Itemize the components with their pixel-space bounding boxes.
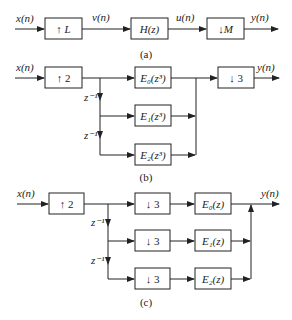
filter-e2-label: E₂(z) <box>201 273 224 286</box>
block-diagrams: x(n) ↑ L v(n) H(z) u(n) ↓M y(n) (a) x(n)… <box>0 0 292 320</box>
downsampler-label: ↓ 3 <box>229 72 243 84</box>
downsampler-1-label: ↓ 3 <box>146 235 160 247</box>
downsampler-2-label: ↓ 3 <box>146 273 160 285</box>
output-label: y(n) <box>250 11 269 24</box>
signal-v-label: v(n) <box>92 11 110 24</box>
diagram-c: x(n) ↑ 2 z⁻¹ z⁻¹ ↓ 3 ↓ 3 ↓ 3 E₀(z) E₁(z)… <box>16 187 279 309</box>
diagram-b: x(n) ↑ 2 z⁻¹ z⁻¹ E₀(z³) E₁(z³) E₂(z³) ↓ … <box>15 61 279 184</box>
delay-1-label: z⁻¹ <box>83 91 98 103</box>
filter-e2-label: E₂(z³) <box>139 149 166 162</box>
filter-e1-label: E₁(z³) <box>139 110 166 123</box>
downsampler-0-label: ↓ 3 <box>146 198 160 210</box>
signal-u-label: u(n) <box>176 11 195 24</box>
caption-a: (a) <box>140 48 153 61</box>
output-label: y(n) <box>256 61 275 74</box>
delay-2-label: z⁻¹ <box>90 254 105 266</box>
filter-e0-label: E₀(z³) <box>139 72 166 85</box>
filter-e0-label: E₀(z) <box>201 198 224 211</box>
upsampler-label: ↑ 2 <box>57 72 71 84</box>
output-label: y(n) <box>260 187 279 200</box>
input-label: x(n) <box>16 187 35 200</box>
delay-1-label: z⁻¹ <box>90 216 105 228</box>
input-label: x(n) <box>15 12 34 25</box>
downsampler-label: ↓M <box>218 23 234 35</box>
caption-c: (c) <box>140 296 153 309</box>
input-label: x(n) <box>15 61 34 74</box>
caption-b: (b) <box>140 171 153 184</box>
upsampler-label: ↑ 2 <box>60 198 74 210</box>
upsampler-label: ↑ L <box>56 23 70 35</box>
filter-e1-label: E₁(z) <box>201 235 224 248</box>
diagram-a: x(n) ↑ L v(n) H(z) u(n) ↓M y(n) (a) <box>15 11 278 61</box>
delay-2-label: z⁻¹ <box>83 129 98 141</box>
filter-label: H(z) <box>139 23 160 36</box>
